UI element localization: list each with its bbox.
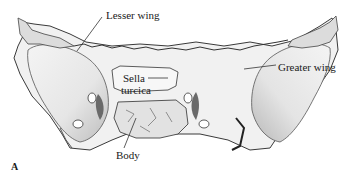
panel-letter: A — [11, 161, 18, 172]
label-body: Body — [116, 149, 140, 161]
label-sella: Sella — [123, 72, 145, 84]
label-greater-wing: Greater wing — [278, 61, 336, 73]
bone-drawing — [0, 0, 356, 176]
label-lesser-wing: Lesser wing — [106, 9, 159, 21]
sphenoid-illustration: Lesser wing Greater wing Sella turcica B… — [0, 0, 356, 176]
label-turcica: turcica — [121, 84, 151, 96]
